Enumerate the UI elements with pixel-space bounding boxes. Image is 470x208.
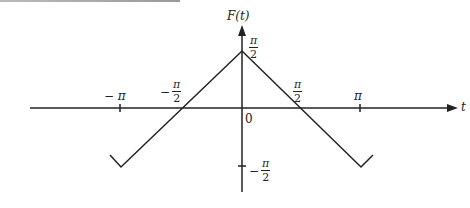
- x-axis-label: t: [461, 101, 466, 113]
- x-tick-pi-half-label: π 2: [293, 79, 302, 104]
- y-axis-arrow-icon: [238, 25, 246, 36]
- origin-label: 0: [245, 113, 253, 125]
- y-axis-label: F(t): [227, 10, 250, 22]
- x-tick-neg-pi-half-label: − π 2: [160, 79, 181, 104]
- plot-canvas: [0, 0, 470, 208]
- y-tick-neg-pi-half-label: − π 2: [249, 158, 270, 183]
- x-axis-arrow-icon: [447, 104, 458, 112]
- neg-pi-label: − π: [104, 90, 126, 102]
- y-tick-pi-half-label: π 2: [249, 35, 258, 60]
- pi-label: π: [354, 90, 362, 102]
